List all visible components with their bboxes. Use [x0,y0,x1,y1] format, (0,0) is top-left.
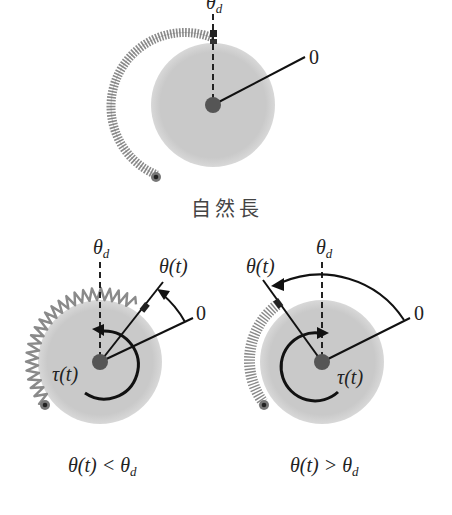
hub [205,97,221,113]
theta-t-label: θ(t) [246,255,275,278]
compressed-panel: θd θ(t) 0 τ(t) θ(t) > θd [246,236,424,479]
arrowhead-icon [271,278,284,291]
stretched-panel: θd θ(t) 0 τ(t) θ(t) < θd [26,236,206,479]
caption-less-than: θ(t) < θd [68,454,137,479]
hub [314,354,330,370]
hub [92,354,108,370]
theta-t-label: θ(t) [159,255,188,278]
theta-d-label: θd [316,236,333,261]
theta-d-label: θd [93,236,110,261]
caption-greater-than: θ(t) > θd [290,454,359,479]
angle-arc [162,294,185,322]
tau-label: τ(t) [52,363,78,386]
caption-natural-length: 自然長 [191,197,263,221]
zero-label: 0 [309,46,319,68]
natural-length-panel: θd 0 自然長 [111,0,319,221]
zero-label: 0 [196,302,206,324]
tau-label: τ(t) [337,366,363,389]
theta-d-label: θd [206,0,223,16]
zero-label: 0 [414,302,424,324]
spring-disk-diagram: θd 0 自然長 θd θ(t) 0 τ(t) θ(t) < θd [0,0,452,515]
